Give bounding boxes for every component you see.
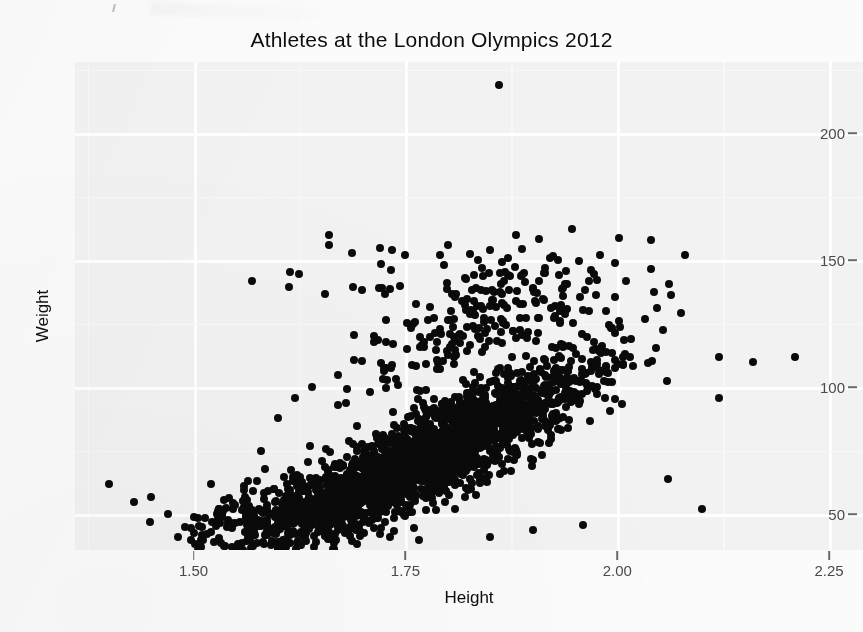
x-tick-mark: [828, 551, 830, 560]
y-tick-label: 50: [828, 506, 845, 523]
scatter-point: [681, 251, 689, 259]
scatter-point: [451, 293, 459, 301]
scatter-point: [421, 468, 429, 476]
scatter-point: [653, 304, 661, 312]
scatter-point: [552, 344, 560, 352]
scatter-point: [715, 353, 723, 361]
scatter-point: [420, 477, 428, 485]
scatter-point: [554, 372, 562, 380]
scatter-point: [511, 263, 519, 271]
scatter-point: [659, 326, 667, 334]
scatter-point: [500, 277, 508, 285]
scatter-point: [524, 328, 532, 336]
scatter-point: [343, 453, 351, 461]
page-title: Athletes at the London Olympics 2012: [0, 28, 863, 52]
scatter-point: [381, 518, 389, 526]
scatter-point: [249, 531, 257, 539]
scatter-point: [512, 334, 520, 342]
scatter-point: [539, 408, 547, 416]
scatter-point: [387, 266, 395, 274]
scatter-point: [286, 268, 294, 276]
scatter-point: [564, 424, 572, 432]
scatter-point: [534, 329, 542, 337]
scatter-point: [555, 425, 563, 433]
scatter-point: [462, 275, 470, 283]
scatter-point: [456, 339, 464, 347]
scatter-point: [556, 319, 564, 327]
scatter-point: [352, 526, 360, 534]
scatter-point: [490, 418, 498, 426]
scatter-point: [466, 475, 474, 483]
scatter-point: [518, 245, 526, 253]
scatter-point: [604, 378, 612, 386]
scatter-point: [461, 301, 469, 309]
scatter-point: [559, 292, 567, 300]
scatter-point: [325, 241, 333, 249]
scatter-point: [509, 420, 517, 428]
scatter-point: [342, 399, 350, 407]
scatter-point: [283, 480, 291, 488]
scatter-point: [340, 496, 348, 504]
y-tick-label: 150: [820, 252, 845, 269]
scatter-point: [409, 443, 417, 451]
scatter-point: [253, 477, 261, 485]
scatter-point: [478, 264, 486, 272]
scatter-point: [611, 395, 619, 403]
scatter-point: [306, 442, 314, 450]
x-tick-label: 2.00: [603, 562, 632, 579]
scatter-point: [462, 467, 470, 475]
scatter-point: [321, 290, 329, 298]
scatter-point: [445, 432, 453, 440]
scatter-point: [667, 291, 675, 299]
scatter-point: [430, 395, 438, 403]
scatter-point: [396, 282, 404, 290]
scatter-point: [507, 467, 515, 475]
x-tick-label: 2.25: [814, 562, 843, 579]
scatter-point: [388, 474, 396, 482]
scatter-point: [450, 333, 458, 341]
scatter-point: [497, 328, 505, 336]
scatter-point: [647, 265, 655, 273]
scatter-point: [427, 492, 435, 500]
scatter-point: [407, 412, 415, 420]
scatter-point: [380, 367, 388, 375]
scatter-point: [565, 416, 573, 424]
scatter-point: [444, 316, 452, 324]
scatter-point: [579, 521, 587, 529]
scatter-point: [377, 260, 385, 268]
scatter-point: [407, 324, 415, 332]
scatter-point: [224, 516, 232, 524]
scatter-point: [446, 343, 454, 351]
scatter-point: [436, 251, 444, 259]
plot-panel: [75, 62, 863, 550]
scatter-point: [585, 307, 593, 315]
scatter-point: [334, 371, 342, 379]
scatter-point: [652, 344, 660, 352]
scatter-point: [249, 542, 257, 550]
scatter-point: [663, 377, 671, 385]
scatter-point: [593, 276, 601, 284]
scatter-point: [644, 359, 652, 367]
scatter-point: [621, 350, 629, 358]
scatter-point: [618, 400, 626, 408]
scatter-point: [451, 505, 459, 513]
scatter-point: [257, 447, 265, 455]
scatter-point: [527, 430, 535, 438]
scan-artifact-streak: [150, 1, 480, 29]
scatter-point: [508, 353, 516, 361]
scatter-point: [190, 513, 198, 521]
scatter-point: [575, 400, 583, 408]
scatter-point: [308, 478, 316, 486]
scatter-point: [498, 460, 506, 468]
scatter-point: [485, 337, 493, 345]
scatter-point: [360, 529, 368, 537]
scatter-point: [390, 527, 398, 535]
scatter-point: [471, 448, 479, 456]
scatter-point: [388, 246, 396, 254]
scatter-point: [557, 354, 565, 362]
scatter-point: [593, 390, 601, 398]
scatter-point: [565, 363, 573, 371]
scatter-point: [353, 540, 361, 548]
scatter-point: [512, 231, 520, 239]
scatter-point: [449, 323, 457, 331]
